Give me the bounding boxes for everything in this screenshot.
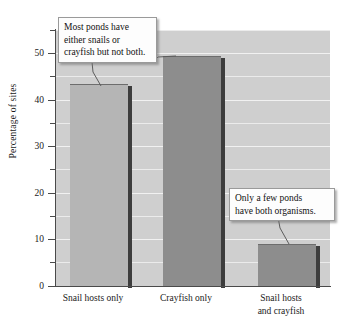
callout-leader-lines [0, 0, 349, 328]
callout-left: Most ponds have either snails or crayfis… [58, 17, 157, 63]
chart-figure: 0 10 20 30 40 50 Percentage of sites Sna… [0, 0, 349, 328]
callout-right: Only a few ponds have both organisms. [229, 188, 335, 221]
